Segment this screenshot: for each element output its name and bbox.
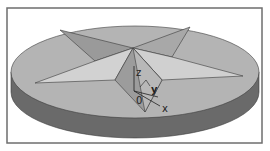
z-label: z [136,67,141,78]
figure-canvas: z y x 0 [0,0,270,151]
disk-star-figure: z y x 0 [0,0,270,151]
origin-label: 0 [136,95,142,106]
x-label: x [162,103,168,114]
y-label: y [151,84,158,95]
